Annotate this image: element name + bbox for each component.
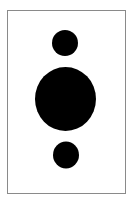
diagram-canvas [0, 0, 136, 203]
bottom-circle [53, 142, 79, 169]
top-circle [52, 30, 78, 56]
middle-circle [35, 67, 96, 131]
